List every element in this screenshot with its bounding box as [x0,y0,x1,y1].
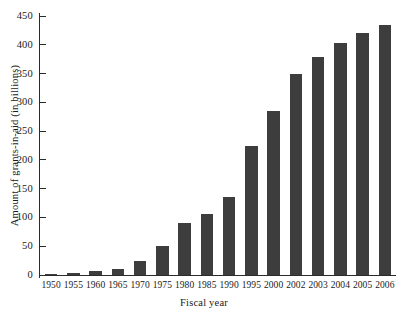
bar [178,223,190,275]
bar [223,197,235,275]
bar-column [334,16,346,275]
x-tick-label: 1980 [174,279,196,291]
bar [379,25,391,275]
bar [267,111,279,275]
x-tick-label: 2002 [285,279,307,291]
bar [312,57,324,275]
bar [67,273,79,275]
bar-column [267,16,279,275]
bar-column [67,16,79,275]
x-tick-label: 1985 [196,279,218,291]
bar-column [134,16,146,275]
x-tick-label: 1955 [62,279,84,291]
bar-column [45,16,57,275]
bar [334,43,346,275]
bar-column [112,16,124,275]
x-axis-title: Fiscal year [0,297,408,308]
bar [201,214,213,275]
bar-column [156,16,168,275]
bar-column [245,16,257,275]
bar-series [40,16,396,275]
bar-chart: 050100150200250300350400450 195019551960… [0,0,408,323]
x-tick-label: 1975 [151,279,173,291]
bar [134,261,146,275]
bar-column [290,16,302,275]
x-tick-label: 2005 [352,279,374,291]
bar [290,74,302,275]
y-axis-title: Amount of grants-in-aid (in billions) [9,21,20,271]
x-tick-label: 2004 [329,279,351,291]
x-tick-label: 1965 [107,279,129,291]
bar-column [201,16,213,275]
bar [356,33,368,275]
x-tick-label: 2006 [374,279,396,291]
bar-column [356,16,368,275]
bar [45,274,57,275]
x-axis-line [39,275,396,276]
x-tick-label: 1960 [85,279,107,291]
bar-column [178,16,190,275]
x-tick-label: 1990 [218,279,240,291]
bar [156,246,168,275]
bar-column [223,16,235,275]
x-tick-label: 1995 [240,279,262,291]
bar-column [312,16,324,275]
bar [89,271,101,275]
bar [245,146,257,276]
x-tick-label: 2000 [263,279,285,291]
bar-column [89,16,101,275]
x-tick-label: 1950 [40,279,62,291]
x-tick-label: 1970 [129,279,151,291]
bar [112,269,124,275]
bar-column [379,16,391,275]
x-tick-label: 2003 [307,279,329,291]
